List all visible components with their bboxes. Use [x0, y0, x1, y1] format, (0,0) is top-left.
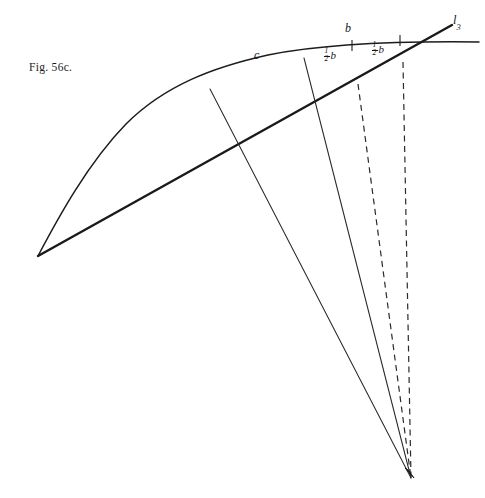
figure-caption: Fig. 56c. — [29, 61, 72, 73]
radial-dashed-line-1 — [358, 84, 411, 478]
chord-line-path — [38, 25, 452, 256]
fraction-one-half-right: 12 — [372, 44, 378, 56]
label-chord-c: c — [254, 48, 259, 63]
fraction-denominator: 2 — [325, 55, 329, 63]
radial-solid-line-1 — [210, 89, 411, 478]
radial-solid-line-2 — [304, 58, 411, 478]
geometric-diagram — [0, 0, 485, 498]
label-line-l3: l3 — [453, 13, 461, 30]
half-b-symbol-left: b — [331, 49, 337, 61]
label-arc-b: b — [345, 21, 351, 36]
label-half-b-left: 12b — [324, 49, 336, 62]
half-b-symbol-right: b — [379, 43, 385, 55]
l3-subscript: 3 — [456, 22, 460, 32]
arc-curve-path — [38, 42, 479, 256]
label-half-b-right: 12b — [372, 43, 384, 56]
radial-dashed-line-2 — [403, 62, 411, 478]
fraction-one-half-left: 12 — [324, 50, 330, 62]
figure-canvas: Fig. 56c. c b 12b 12b l3 — [0, 0, 485, 498]
fraction-denominator: 2 — [373, 49, 377, 57]
